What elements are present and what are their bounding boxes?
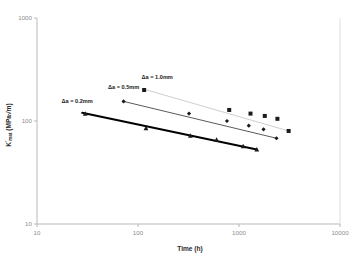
data-point	[263, 114, 267, 118]
y-tick-label: 10	[25, 220, 32, 227]
x-tick-label: 10000	[331, 229, 349, 236]
chart-container: 10100100010000101001000 Δa = 0.2mmΔa = 0…	[0, 0, 354, 268]
y-tick-label: 100	[22, 117, 33, 124]
x-tick-label: 1000	[232, 229, 246, 236]
x-tick-label: 10	[34, 229, 41, 236]
data-point	[249, 112, 253, 116]
y-tick-label: 1000	[18, 14, 32, 21]
data-point	[275, 117, 279, 121]
x-axis-title: Time (h)	[177, 245, 203, 253]
data-point	[142, 88, 146, 92]
data-point	[227, 108, 231, 112]
x-tick-label: 100	[133, 229, 144, 236]
scatter-plot: 10100100010000101001000 Δa = 0.2mmΔa = 0…	[0, 0, 354, 268]
series-label-2: Δa = 0.5mm	[108, 84, 139, 90]
series-label-3: Δa = 1.0mm	[142, 74, 173, 80]
plot-background	[0, 0, 354, 268]
data-point	[287, 129, 291, 133]
series-label-1: Δa = 0.2mm	[62, 98, 93, 104]
